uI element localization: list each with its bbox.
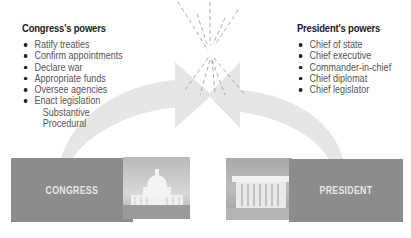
congress-powers-list: Ratify treaties Confirm appointments Dec…: [22, 39, 134, 129]
president-powers-title: President's powers: [297, 22, 391, 34]
president-powers-list: Chief of state Chief executive Commander…: [297, 39, 402, 95]
white-house-icon: [226, 158, 292, 220]
congress-box: CONGRESS: [11, 158, 133, 222]
list-item: Confirm appointments: [22, 50, 123, 61]
list-item: Oversee agencies: [22, 84, 123, 95]
list-item: Chief of state: [297, 39, 391, 50]
congress-label: CONGRESS: [46, 185, 98, 196]
white-house-image: [226, 158, 292, 220]
capitol-building-image: [123, 157, 190, 219]
president-label: PRESIDENT: [320, 185, 373, 196]
capitol-icon: [123, 157, 190, 219]
sub-list-item: Substantive: [22, 107, 123, 118]
president-powers-panel: President's powers Chief of state Chief …: [297, 22, 402, 95]
list-item: Chief executive: [297, 50, 391, 61]
list-item: Ratify treaties: [22, 39, 123, 50]
president-box: PRESIDENT: [289, 159, 403, 222]
list-item: Chief legislator: [297, 84, 391, 95]
congress-powers-title: Congress's powers: [22, 22, 123, 34]
list-item: Enact legislation: [22, 95, 123, 106]
list-item: Chief diplomat: [297, 73, 391, 84]
list-item: Commander-in-chief: [297, 62, 391, 73]
list-item: Declare war: [22, 62, 123, 73]
congress-powers-panel: Congress's powers Ratify treaties Confir…: [22, 22, 134, 129]
sub-list-item: Procedural: [22, 118, 123, 129]
list-item: Appropriate funds: [22, 73, 123, 84]
